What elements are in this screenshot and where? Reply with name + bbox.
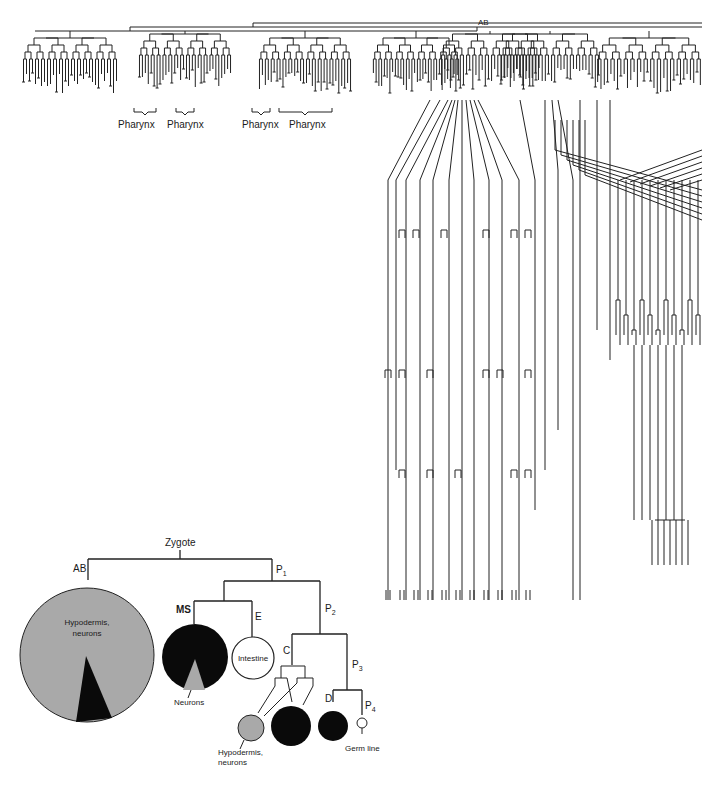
summary-lineage-tree: Zygote AB P1 Hypodermis, neurons MS E P2… <box>20 537 380 767</box>
d-label: D <box>325 693 332 704</box>
p3-branch <box>333 690 362 715</box>
zygote-label: Zygote <box>165 537 196 548</box>
p4-germline-circle <box>357 718 367 728</box>
c-fate-label-2: neurons <box>218 758 247 767</box>
p2-label: P2 <box>325 603 336 616</box>
pharynx-label-2: Pharynx <box>167 119 204 130</box>
c-muscle-circle <box>271 706 311 746</box>
zygote-branch <box>88 550 272 580</box>
p4-label: P4 <box>365 700 376 713</box>
e-label: E <box>255 611 262 622</box>
ab-fate-label-2: neurons <box>73 629 102 638</box>
lineage-branches <box>22 23 702 600</box>
full-lineage-tree <box>22 23 702 600</box>
p1-branch <box>224 580 320 634</box>
ms-neurons-callout-line <box>188 690 191 698</box>
d-fate-circle <box>318 711 348 741</box>
ms-neurons-label: Neurons <box>174 698 204 707</box>
pharynx-label-3: Pharynx <box>242 119 279 130</box>
pharynx-bracket-2 <box>176 108 194 115</box>
c-fate-label-1: Hypodermis, <box>218 748 263 757</box>
p1-label: P1 <box>276 564 287 577</box>
p2-branch <box>292 634 347 690</box>
ab-fate-label-1: Hypodermis, <box>65 618 110 627</box>
pharynx-label-1: Pharynx <box>118 119 155 130</box>
pharynx-bracket-1 <box>134 108 156 115</box>
c-hypodermis-circle <box>238 715 264 741</box>
lineage-root-label: AB <box>478 18 489 27</box>
pharynx-bracket-3 <box>252 108 270 115</box>
pharynx-label-4: Pharynx <box>289 119 326 130</box>
pharynx-bracket-4 <box>279 108 332 115</box>
pharynx-annotations: Pharynx Pharynx Pharynx Pharynx <box>118 108 332 130</box>
intestine-label: Intestine <box>238 654 269 663</box>
germ-line-label: Germ line <box>345 744 380 753</box>
ms-label: MS <box>176 604 191 615</box>
ab-label: AB <box>73 563 87 574</box>
c-label: C <box>283 645 290 656</box>
cell-lineage-figure: AB Pharynx Pharynx Pharynx Pharynx Zygot… <box>0 0 702 786</box>
p3-label: P3 <box>352 659 363 672</box>
